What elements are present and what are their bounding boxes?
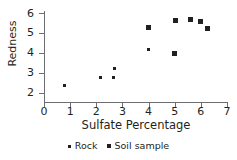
y-tick bbox=[39, 93, 44, 94]
data-point bbox=[113, 67, 116, 70]
scatter-chart: 65432 01234567 Redness Sulfate Percentag… bbox=[0, 0, 237, 160]
y-axis-line bbox=[44, 11, 45, 103]
x-tick-label: 0 bbox=[37, 106, 51, 117]
x-tick-label: 3 bbox=[115, 106, 129, 117]
chart-legend: RockSoil sample bbox=[0, 141, 237, 151]
data-point bbox=[146, 25, 151, 30]
x-tick-label: 2 bbox=[89, 106, 103, 117]
data-point bbox=[173, 18, 178, 23]
y-tick-label: 4 bbox=[16, 47, 34, 58]
x-tick-label: 6 bbox=[194, 106, 208, 117]
plot-area bbox=[0, 0, 237, 160]
data-point bbox=[99, 76, 102, 79]
legend-marker-icon bbox=[107, 144, 111, 148]
y-tick bbox=[39, 73, 44, 74]
y-axis-title: Redness bbox=[7, 11, 18, 77]
y-tick bbox=[39, 53, 44, 54]
legend-item[interactable]: Rock bbox=[68, 141, 98, 151]
x-tick-label: 5 bbox=[168, 106, 182, 117]
data-point bbox=[112, 76, 115, 79]
y-tick-label: 2 bbox=[16, 87, 34, 98]
x-tick-label: 1 bbox=[63, 106, 77, 117]
y-tick-label: 6 bbox=[16, 8, 34, 19]
data-point bbox=[172, 51, 177, 56]
x-tick-label: 7 bbox=[220, 106, 234, 117]
y-tick-label: 3 bbox=[16, 67, 34, 78]
legend-marker-icon bbox=[68, 145, 71, 148]
y-tick bbox=[39, 13, 44, 14]
data-point bbox=[147, 48, 150, 51]
x-tick-label: 4 bbox=[142, 106, 156, 117]
y-tick-label: 5 bbox=[16, 27, 34, 38]
x-axis-title: Sulfate Percentage bbox=[44, 119, 228, 131]
data-point bbox=[205, 26, 210, 31]
legend-item[interactable]: Soil sample bbox=[107, 141, 170, 151]
y-tick bbox=[39, 33, 44, 34]
data-point bbox=[63, 84, 66, 87]
data-point bbox=[188, 17, 193, 22]
data-point bbox=[198, 19, 203, 24]
legend-label: Soil sample bbox=[115, 141, 170, 151]
legend-label: Rock bbox=[75, 141, 98, 151]
